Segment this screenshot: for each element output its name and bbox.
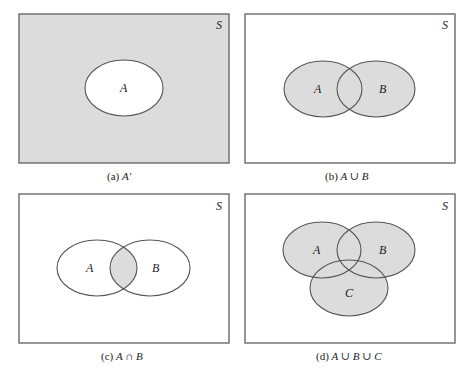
panel-a-complement: A S (a) A′ [19,14,229,183]
set-b-label: B [379,243,387,257]
set-b-label: B [152,261,160,275]
universe-label-c: S [216,199,222,213]
universe-label-d: S [442,199,448,213]
set-a-label: A [85,261,94,275]
set-a-label: A [313,82,322,96]
caption-b: (b) A ∪ B [325,170,369,183]
set-b-label: B [379,82,387,96]
caption-d: (d) A ∪ B ∪ C [316,350,382,363]
set-a-label: A [312,243,321,257]
universe-label-b: S [442,18,448,32]
set-c-label: C [345,286,354,300]
universe-label-a: S [216,18,222,32]
panel-b-union: A B S (b) A ∪ B [245,14,455,183]
venn-diagram-figure: A S (a) A′ A B S (b) A ∪ B A B S (c) A ∩… [0,0,476,374]
panel-d-triple-union: A B C S (d) A ∪ B ∪ C [245,194,455,363]
set-a-label: A [119,81,128,95]
panel-c-intersection: A B S (c) A ∩ B [19,194,229,363]
caption-a: (a) A′ [107,170,132,183]
caption-c: (c) A ∩ B [101,350,143,363]
